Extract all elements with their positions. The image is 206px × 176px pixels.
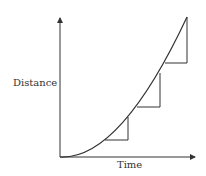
- distance-time-diagram: [0, 0, 206, 176]
- y-axis-label: Distance: [13, 77, 57, 88]
- distance-curve: [60, 17, 187, 157]
- gradient-triangle-2: [137, 73, 160, 107]
- x-axis-label: Time: [117, 159, 142, 170]
